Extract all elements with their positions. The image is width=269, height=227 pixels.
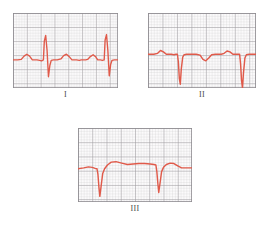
ecg-panel-lead-i (13, 13, 118, 88)
ecg-panel-lead-ii (148, 13, 256, 88)
ecg-panel-lead-iii (78, 128, 192, 202)
ecg-panel-label-i: I (13, 90, 118, 100)
ecg-figure: I II (0, 0, 269, 227)
ecg-strip-lead-i (13, 13, 118, 88)
ecg-strip-lead-ii (148, 13, 256, 88)
ecg-panel-label-ii: II (148, 90, 256, 100)
ecg-panel-label-iii: III (78, 204, 192, 214)
ecg-strip-lead-iii (78, 128, 192, 202)
